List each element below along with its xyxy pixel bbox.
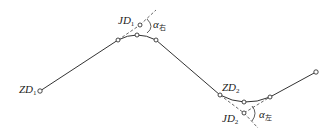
route-line bbox=[40, 35, 316, 102]
curve1-mid-point bbox=[135, 33, 139, 37]
zd1-label-main: ZD bbox=[19, 83, 33, 95]
jd1-point bbox=[138, 23, 142, 27]
alpha1-label: α右 bbox=[153, 19, 166, 32]
zd2-label-sub: 2 bbox=[236, 87, 240, 95]
zd1-label-sub: 1 bbox=[33, 89, 37, 97]
curve2-mid-point bbox=[242, 100, 246, 104]
alpha2-label: α左 bbox=[259, 109, 272, 122]
curve1-end-point bbox=[154, 38, 158, 42]
angle-arc-2 bbox=[252, 106, 255, 121]
zd2-label: ZD2 bbox=[222, 82, 240, 95]
curve2-end-point bbox=[268, 95, 272, 99]
jd2-label-main: JD bbox=[222, 112, 235, 124]
zd1-label: ZD1 bbox=[19, 84, 37, 97]
jd1-label-sub: 1 bbox=[131, 20, 135, 28]
end-point bbox=[314, 70, 318, 74]
alpha1-label-sub: 右 bbox=[159, 24, 166, 32]
curve1-start-point bbox=[116, 38, 120, 42]
angle-arc-1 bbox=[147, 19, 151, 33]
zd1-point bbox=[38, 89, 42, 93]
jd1-label: JD1 bbox=[118, 15, 134, 28]
tangent-lines bbox=[118, 10, 270, 128]
jd1-label-main: JD bbox=[118, 14, 131, 26]
zd2-label-main: ZD bbox=[222, 81, 236, 93]
route-points bbox=[38, 23, 318, 115]
jd2-point bbox=[242, 111, 246, 115]
jd2-label-sub: 2 bbox=[235, 118, 239, 126]
alpha2-label-sub: 左 bbox=[265, 114, 272, 122]
jd2-label: JD2 bbox=[222, 113, 238, 126]
route-diagram bbox=[0, 0, 334, 139]
